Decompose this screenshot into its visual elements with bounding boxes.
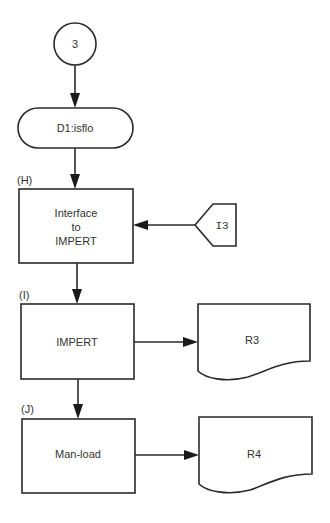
arrow-h-to-i: [72, 263, 82, 304]
terminator-label: D1:isflo: [57, 122, 94, 134]
arrow-i-to-j: [73, 379, 83, 419]
step-h-line-3: IMPERT: [55, 235, 97, 247]
start-connector: 3: [54, 23, 96, 65]
terminator-d1-isflo: D1:isflo: [18, 108, 133, 148]
start-connector-label: 3: [72, 38, 78, 50]
step-tag-h: (H): [17, 174, 32, 186]
arrow-j-to-r4: [135, 450, 199, 460]
arrow-start-to-terminator: [70, 65, 80, 108]
step-h-line-1: Interface: [55, 207, 98, 219]
arrow-i-to-r3: [134, 337, 198, 347]
step-i-line-1: IMPERT: [56, 336, 98, 348]
document-r4: R4: [199, 417, 312, 493]
step-tag-j: (J): [21, 403, 34, 415]
flowchart: 3 D1:isflo (H) Interface to IMPERT I3 (I: [0, 0, 330, 523]
off-page-connector-i3: I3: [195, 204, 236, 246]
document-r3-label: R3: [245, 334, 259, 346]
document-r3: R3: [198, 304, 310, 380]
document-r4-label: R4: [247, 448, 261, 460]
step-j-line-1: Man-load: [55, 448, 101, 460]
connector-i3-label: I3: [215, 220, 228, 232]
step-tag-i: (I): [19, 289, 29, 301]
arrow-terminator-to-h: [70, 148, 80, 189]
step-h-line-2: to: [71, 221, 80, 233]
arrow-i3-to-h: [133, 220, 195, 230]
